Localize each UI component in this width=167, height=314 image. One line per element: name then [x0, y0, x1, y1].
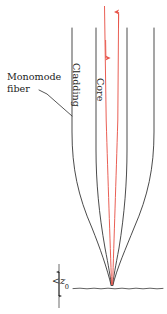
sample-surface-line	[73, 288, 163, 289]
diagram-canvas	[0, 0, 167, 314]
fiber-probe-diagram: Monomode fiber Cladding Core <z0	[0, 0, 167, 314]
outgoing-light-ray	[113, 14, 119, 285]
cladding-label: Cladding	[71, 63, 82, 107]
z0-subscript: 0	[65, 283, 69, 291]
z0-gap-label: <z0	[52, 275, 70, 289]
monomode-fiber-label: Monomode fiber	[7, 71, 65, 94]
core-wall-right	[113, 28, 127, 286]
core-wall-left	[96, 28, 111, 286]
core-label: Core	[95, 78, 106, 101]
less-than-sign: <	[52, 276, 60, 286]
